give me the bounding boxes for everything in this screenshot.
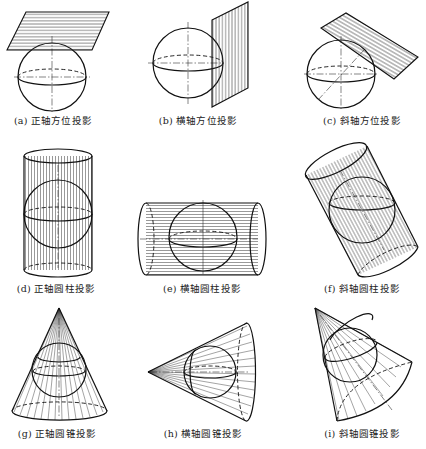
- caption-d: (d) 正轴圆柱投影: [17, 281, 96, 295]
- panel-a-normal-azimuthal: [7, 12, 109, 112]
- panel-d-normal-cylindrical: [24, 149, 92, 277]
- panel-f-oblique-cylindrical: [301, 136, 418, 277]
- caption-a: (a) 正轴方位投影: [14, 113, 92, 127]
- caption-i: (i) 斜轴圆锥投影: [324, 426, 399, 440]
- panel-c-oblique-azimuthal: [304, 13, 418, 110]
- projection-figure: (a) 正轴方位投影 (b) 横轴方位投影 (c) 斜轴方位投影 (d) 正轴圆…: [0, 0, 426, 449]
- caption-c: (c) 斜轴方位投影: [323, 113, 401, 127]
- caption-f: (f) 斜轴圆柱投影: [324, 281, 400, 295]
- panel-e-transverse-cylindrical: [138, 200, 266, 275]
- panel-i-oblique-conic: [315, 308, 412, 421]
- caption-e: (e) 横轴圆柱投影: [163, 281, 241, 295]
- caption-h: (h) 横轴圆锥投影: [164, 426, 243, 440]
- panel-b-transverse-azimuthal: [148, 2, 248, 107]
- caption-b: (b) 横轴方位投影: [159, 113, 238, 127]
- panel-g-normal-conic: [12, 308, 107, 420]
- panel-h-transverse-conic: [148, 323, 256, 421]
- caption-g: (g) 正轴圆锥投影: [18, 426, 97, 440]
